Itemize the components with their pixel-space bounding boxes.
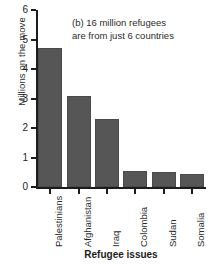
bar-iraq[interactable] <box>95 119 119 187</box>
x-category-label-afghanistan: Afghanistan <box>83 197 93 247</box>
x-category-label-colombia: Colombia <box>139 207 149 247</box>
bar-sudan[interactable] <box>152 172 176 187</box>
annotation-line-1: (b) 16 million refugees <box>72 16 210 29</box>
x-category-label-palestinians: Palestinians <box>54 196 64 247</box>
y-tick-6: 6 <box>31 9 36 11</box>
bar-afghanistan[interactable] <box>67 96 91 187</box>
x-axis-line <box>36 187 206 189</box>
y-tick-label: 3 <box>22 94 28 104</box>
y-tick-label: 1 <box>22 153 28 163</box>
bar-somalia[interactable] <box>180 174 204 187</box>
y-tick-label: 0 <box>22 182 28 192</box>
x-category-label-somalia: Somalia <box>196 213 206 247</box>
bar-colombia[interactable] <box>123 171 147 187</box>
y-tick-label: 6 <box>22 5 28 15</box>
x-category-label-iraq: Iraq <box>111 231 121 247</box>
y-tick-3: 3 <box>31 98 36 100</box>
bar-palestinians[interactable] <box>38 48 62 187</box>
y-tick-2: 2 <box>31 127 36 129</box>
y-tick-5: 5 <box>31 39 36 41</box>
y-tick-1: 1 <box>31 157 36 159</box>
x-category-label-sudan: Sudan <box>168 220 178 247</box>
chart-annotation: (b) 16 million refugees are from just 6 … <box>72 16 210 42</box>
x-category-label-group: PalestiniansAfghanistanIraqColombiaSudan… <box>36 191 206 249</box>
y-tick-label: 5 <box>22 35 28 45</box>
y-tick-label: 4 <box>22 64 28 74</box>
bar-chart-figure: Millions on the move 0123456 Palestinian… <box>0 0 211 265</box>
annotation-line-2: are from just 6 countries <box>72 29 210 42</box>
y-tick-0: 0 <box>31 186 36 188</box>
y-tick-4: 4 <box>31 68 36 70</box>
y-tick-label: 2 <box>22 123 28 133</box>
x-axis-title: Refugee issues <box>36 249 206 260</box>
